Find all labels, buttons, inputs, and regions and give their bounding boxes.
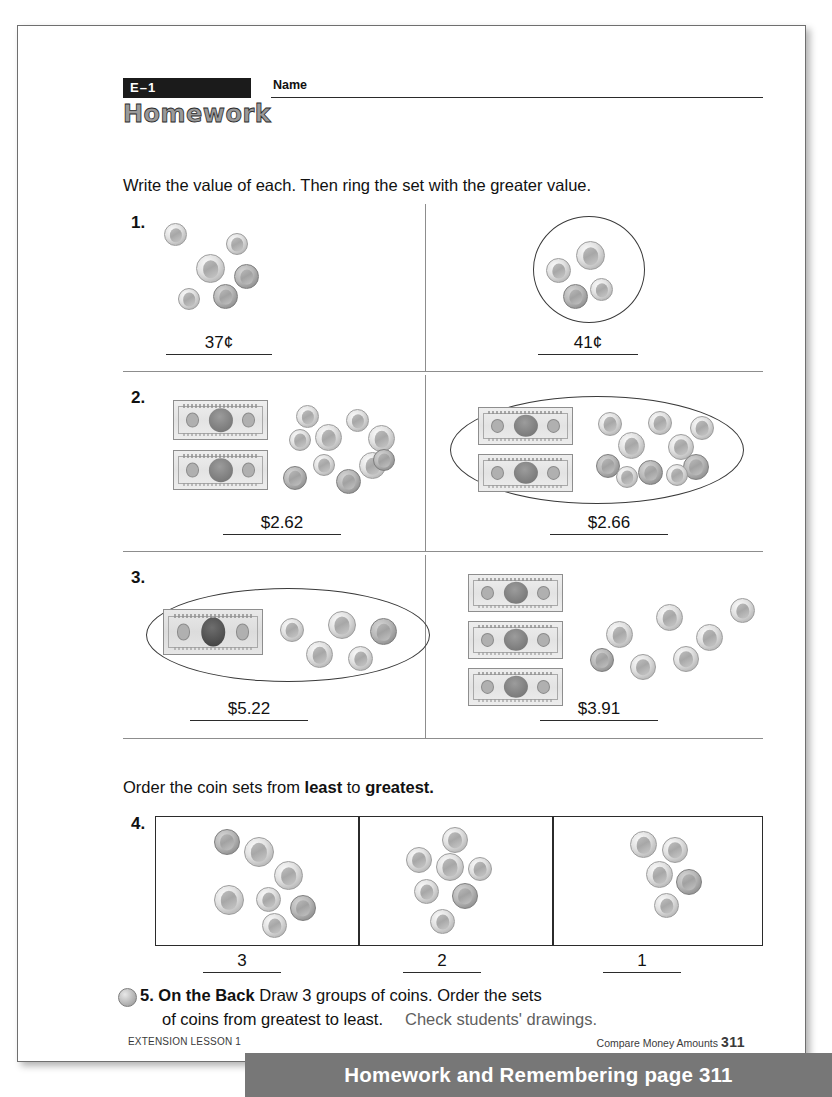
coin <box>436 853 464 881</box>
direction-2-mid: to <box>342 778 365 796</box>
ordering-answer-1[interactable]: 3 <box>203 951 281 973</box>
coin <box>406 847 432 873</box>
coin <box>673 646 699 672</box>
dollar-bill <box>468 621 563 659</box>
coin <box>598 412 622 436</box>
ordering-answer-2[interactable]: 2 <box>403 951 481 973</box>
worksheet-page: E–1 Homework Name Write the value of eac… <box>17 25 806 1062</box>
coin <box>196 254 225 283</box>
coin <box>178 288 200 310</box>
coin <box>348 646 373 671</box>
coin <box>328 611 356 639</box>
direction-line-1: Write the value of each. Then ring the s… <box>123 176 591 195</box>
coin <box>452 883 478 909</box>
coin <box>666 464 688 486</box>
five-dollar-bill <box>163 609 263 655</box>
name-write-line[interactable] <box>271 97 763 98</box>
bottom-banner: Homework and Remembering page 311 <box>245 1053 832 1097</box>
grid-divider-2 <box>425 375 426 551</box>
coin <box>442 827 468 853</box>
coin <box>638 460 663 485</box>
coin <box>244 837 274 867</box>
coin <box>214 829 240 855</box>
page-title: Homework <box>123 100 271 128</box>
coin <box>306 641 333 668</box>
problem-2-number: 2. <box>131 388 145 408</box>
problem-1-right-answer[interactable]: 41¢ <box>538 333 638 355</box>
problem-3-number: 3. <box>131 568 145 588</box>
coin <box>274 861 303 890</box>
coin <box>468 857 492 881</box>
coin <box>336 469 361 494</box>
grid-divider-1 <box>425 204 426 371</box>
coin <box>676 869 702 895</box>
footer-page-number: 311 <box>721 1034 745 1050</box>
footer-lesson: EXTENSION LESSON 1 <box>128 1036 241 1047</box>
grid-rule-3 <box>123 738 763 739</box>
coin <box>164 223 187 246</box>
coin <box>590 648 614 672</box>
name-label: Name <box>273 78 307 92</box>
item-5: 5. On the Back Draw 3 groups of coins. O… <box>140 986 760 1029</box>
direction-2-greatest: greatest. <box>365 778 434 796</box>
item-5-line-1: 5. On the Back Draw 3 groups of coins. O… <box>140 986 760 1005</box>
coin <box>618 432 645 459</box>
item-5-text-2: of coins from greatest to least. <box>162 1010 383 1028</box>
ordering-boxes <box>155 816 763 946</box>
bottom-banner-text: Homework and Remembering page 311 <box>344 1063 732 1087</box>
problem-4-number: 4. <box>131 814 145 834</box>
item-5-line-2: of coins from greatest to least.Check st… <box>140 1010 760 1029</box>
coin <box>546 258 571 283</box>
problem-2-right-answer[interactable]: $2.66 <box>550 513 668 535</box>
coin <box>280 618 304 642</box>
problem-3-right-answer[interactable]: $3.91 <box>540 699 658 721</box>
ordering-box-3 <box>553 816 763 946</box>
problem-1-left-answer[interactable]: 37¢ <box>166 333 272 355</box>
coin <box>648 411 672 435</box>
coin <box>690 416 714 440</box>
coin <box>346 409 369 432</box>
ordering-box-2 <box>359 816 553 946</box>
coin <box>646 861 673 888</box>
coin <box>616 466 638 488</box>
coin <box>373 449 395 471</box>
item-5-number: 5. <box>140 986 154 1004</box>
coin <box>213 284 238 309</box>
footer-topic: Compare Money Amounts <box>597 1037 718 1049</box>
coin <box>296 405 319 428</box>
coin <box>370 618 397 645</box>
coin <box>563 284 588 309</box>
ordering-answer-3[interactable]: 1 <box>603 951 681 973</box>
grid-rule-1 <box>123 371 763 372</box>
footer-right: Compare Money Amounts 311 <box>597 1034 745 1050</box>
coin <box>696 624 723 651</box>
coin <box>606 621 633 648</box>
coin <box>283 466 307 490</box>
coin <box>654 893 679 918</box>
coin <box>414 879 439 904</box>
grid-rule-2 <box>123 551 763 552</box>
coin <box>234 264 259 289</box>
item-5-text-1: Draw 3 groups of coins. Order the sets <box>259 986 541 1004</box>
coin <box>262 913 287 938</box>
direction-2-least: least <box>305 778 343 796</box>
problem-2-left-answer[interactable]: $2.62 <box>223 513 341 535</box>
coin <box>576 241 605 270</box>
coin <box>730 598 755 623</box>
dollar-bill <box>173 400 268 440</box>
coin <box>656 604 683 631</box>
worksheet-header: E–1 Homework Name <box>123 78 763 148</box>
coin <box>662 837 688 863</box>
problem-3-left-answer[interactable]: $5.22 <box>190 699 308 721</box>
coin <box>226 233 248 255</box>
coin-bullet-icon <box>118 988 137 1007</box>
coin <box>590 278 613 301</box>
coin <box>630 831 657 858</box>
coin <box>630 654 656 680</box>
coin <box>289 429 311 451</box>
item-5-answer-note: Check students' drawings. <box>405 1010 597 1028</box>
lesson-tag: E–1 <box>123 78 251 98</box>
direction-line-2: Order the coin sets from least to greate… <box>123 778 434 797</box>
dollar-bill <box>173 450 268 490</box>
dollar-bill <box>468 574 563 612</box>
